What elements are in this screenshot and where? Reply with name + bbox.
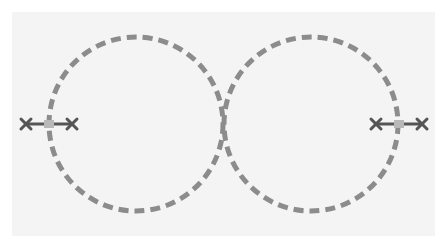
right-circle: [224, 37, 398, 211]
left-marker-center: [44, 120, 54, 128]
right-marker-center: [394, 120, 404, 128]
left-circle: [49, 37, 223, 211]
diagram-canvas: [0, 0, 448, 250]
left-marker: [21, 119, 77, 129]
right-marker: [371, 119, 427, 129]
